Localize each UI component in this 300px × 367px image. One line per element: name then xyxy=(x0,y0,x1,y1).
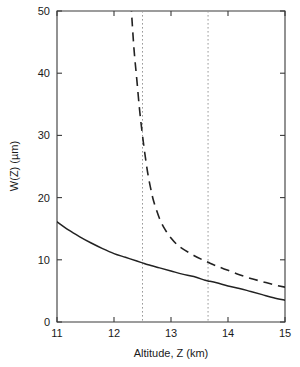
y-tick-label: 10 xyxy=(38,254,50,266)
x-tick-label: 14 xyxy=(222,327,234,339)
data-series-group xyxy=(57,0,285,300)
y-tick-label: 0 xyxy=(44,316,50,328)
x-axis-title: Altitude, Z (km) xyxy=(134,347,209,359)
y-tick-label: 20 xyxy=(38,192,50,204)
series-solid-curve xyxy=(57,222,285,300)
y-tick-label: 30 xyxy=(38,129,50,141)
plot-frame xyxy=(57,11,285,322)
y-axis-ticks xyxy=(57,11,285,322)
x-axis-tick-labels: 1112131415 xyxy=(51,327,291,339)
x-tick-label: 15 xyxy=(279,327,291,339)
series-dashed-curve xyxy=(125,0,285,287)
y-tick-label: 40 xyxy=(38,67,50,79)
x-tick-label: 12 xyxy=(108,327,120,339)
vertical-marker-lines xyxy=(143,11,209,322)
y-axis-title: W(Z) (µm) xyxy=(8,141,20,191)
x-tick-label: 11 xyxy=(51,327,62,339)
y-axis-tick-labels: 01020304050 xyxy=(38,5,50,328)
y-tick-label: 50 xyxy=(38,5,50,17)
x-axis-ticks xyxy=(57,11,285,322)
x-tick-label: 13 xyxy=(165,327,177,339)
chart-figure: 1112131415 01020304050 Altitude, Z (km) … xyxy=(0,0,300,367)
line-chart: 1112131415 01020304050 Altitude, Z (km) … xyxy=(0,0,300,367)
